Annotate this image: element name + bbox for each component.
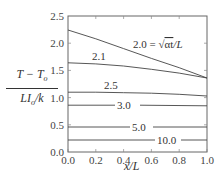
- svg-text:0.6: 0.6: [145, 154, 159, 166]
- label-10.0: 10.0: [157, 134, 177, 146]
- y-ticks: [68, 43, 207, 125]
- curve-3.0b: [140, 105, 207, 106]
- svg-text:2.5: 2.5: [50, 10, 64, 22]
- svg-text:0.2: 0.2: [89, 154, 103, 166]
- x-axis-label: x/L: [124, 159, 139, 174]
- label-5.0: 5.0: [132, 121, 146, 133]
- label-2.0: 2.0 = √αt/L: [133, 38, 183, 50]
- label-3.0: 3.0: [117, 99, 131, 111]
- fraction-bar: [6, 88, 58, 89]
- svg-text:0.5: 0.5: [50, 119, 64, 131]
- curve-2.5: [68, 92, 207, 96]
- y-label-numerator: T − To: [4, 66, 60, 87]
- label-2.5: 2.5: [104, 79, 118, 91]
- label-2.1: 2.1: [92, 50, 106, 62]
- svg-text:0.8: 0.8: [172, 154, 186, 166]
- svg-text:0.0: 0.0: [61, 154, 75, 166]
- svg-text:1.0: 1.0: [200, 154, 214, 166]
- svg-text:2.0: 2.0: [50, 37, 64, 49]
- y-label-denominator: LIo/k: [4, 90, 60, 111]
- y-axis-label: T − To LIo/k: [4, 66, 60, 112]
